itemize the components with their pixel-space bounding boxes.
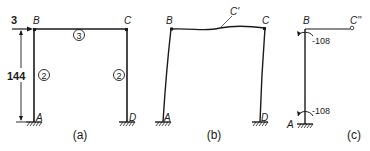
member-number-left-column: 2 [41, 71, 46, 81]
caption-c: (c) [347, 128, 361, 142]
joint-label-a: A [35, 112, 43, 123]
joint-b-marker [33, 28, 36, 31]
panel-a: 3 144 B C A D 2 3 2 (a) [6, 14, 136, 142]
pin-c-double-prime-icon [350, 26, 354, 30]
moment-value-top: -108 [312, 36, 330, 46]
moment-value-bottom: -108 [312, 106, 330, 116]
joint-label-b: B [166, 15, 173, 26]
joint-label-a: A [286, 119, 294, 130]
leader-line-c-prime [221, 16, 232, 27]
caption-b: (b) [207, 128, 222, 142]
panel-c: B C'' A -108 -108 (c) [286, 15, 362, 142]
panel-b: B C C' A D (b) [155, 6, 270, 142]
caption-a: (a) [73, 128, 88, 142]
deflected-column-ab [163, 29, 171, 122]
fixed-support-a-icon [297, 124, 313, 128]
joint-label-c-double-prime: C'' [350, 15, 362, 26]
joint-c-marker [263, 27, 266, 30]
deflected-column-cd [260, 28, 265, 122]
joint-c-marker [125, 28, 128, 31]
deflected-beam-bc [171, 26, 265, 30]
load-value: 3 [11, 14, 17, 26]
joint-label-c: C [124, 15, 132, 26]
joint-label-b: B [33, 15, 40, 26]
joint-label-d: D [129, 112, 136, 123]
joint-label-c: C [262, 15, 270, 26]
joint-b-marker [170, 28, 173, 31]
load-arrow-icon [12, 27, 33, 32]
frame-diagram: 3 144 B C A D 2 3 2 (a) [0, 0, 370, 151]
joint-label-c-prime: C' [230, 6, 240, 17]
height-dimension: 144 [7, 70, 26, 82]
joint-label-a: A [163, 112, 171, 123]
member-number-right-column: 2 [116, 71, 121, 81]
joint-label-b: B [303, 15, 310, 26]
joint-label-d: D [261, 112, 268, 123]
member-number-beam: 3 [76, 31, 81, 41]
